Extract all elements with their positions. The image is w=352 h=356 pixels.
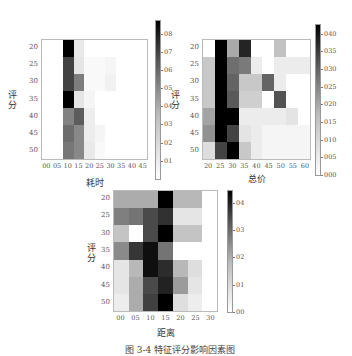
heatmap-cell: [114, 260, 129, 277]
colorbar-tick-label: 015: [324, 118, 336, 126]
heatmap-cell: [188, 260, 203, 277]
heatmap-grid-total-price: [202, 39, 311, 160]
heatmap-cell: [173, 242, 188, 259]
heatmap-cell: [74, 142, 85, 159]
heatmap-cell: [173, 294, 188, 311]
heatmap-cell: [84, 57, 95, 74]
heatmap-cell: [129, 294, 144, 311]
heatmap-cell: [105, 57, 116, 74]
heatmap-cell: [129, 277, 144, 294]
heatmap-cell: [74, 108, 85, 125]
heatmap-cell: [298, 108, 310, 125]
heatmap-cell: [227, 142, 239, 159]
colorbar-tick-label: 035: [324, 47, 336, 55]
heatmap-cell: [286, 142, 298, 159]
x-axis-label-total-price: 总价: [202, 172, 311, 185]
heatmap-cell: [126, 74, 137, 91]
heatmap-cell: [42, 74, 53, 91]
heatmap-cell: [215, 40, 227, 57]
y-axis-label-total-price: 评分: [170, 90, 180, 110]
x-tick-label: 10: [144, 314, 158, 322]
heatmap-cell: [188, 294, 203, 311]
heatmap-cell: [227, 91, 239, 108]
colorbar-tick-label: 030: [324, 65, 336, 73]
heatmap-cell: [188, 242, 203, 259]
colorbar-tick-label: 005: [324, 153, 336, 161]
heatmap-cell: [251, 74, 263, 91]
heatmap-cell: [42, 125, 53, 142]
heatmap-cell: [298, 74, 310, 91]
colorbar-duration: [155, 20, 161, 180]
figure-caption: 图 3-4 特征评分影响因素图: [100, 343, 260, 356]
heatmap-cell: [251, 108, 263, 125]
heatmap-cell: [203, 142, 215, 159]
heatmap-cell: [95, 91, 106, 108]
heatmap-cell: [203, 74, 215, 91]
heatmap-cell: [215, 57, 227, 74]
heatmap-cell: [63, 91, 74, 108]
heatmap-cell: [126, 125, 137, 142]
heatmap-cell: [95, 74, 106, 91]
x-tick-label: 60: [298, 162, 312, 170]
heatmap-cell: [188, 208, 203, 225]
heatmap-cell: [74, 57, 85, 74]
y-tick-label: 35: [183, 95, 199, 103]
heatmap-cell: [126, 142, 137, 159]
x-tick-label: 15: [159, 314, 173, 322]
colorbar-tick-label: 07: [164, 48, 172, 56]
heatmap-cell: [53, 40, 64, 57]
heatmap-cell: [158, 225, 173, 242]
x-tick-label: 00: [114, 314, 128, 322]
heatmap-cell: [251, 91, 263, 108]
heatmap-cell: [188, 191, 203, 208]
heatmap-cell: [227, 125, 239, 142]
colorbar-tick-label: 04: [236, 199, 244, 207]
heatmap-cell: [158, 260, 173, 277]
heatmap-cell: [63, 74, 74, 91]
heatmap-cell: [215, 142, 227, 159]
heatmap-cell: [286, 57, 298, 74]
colorbar-distance: [227, 190, 233, 313]
heatmap-cell: [158, 242, 173, 259]
heatmap-cell: [137, 142, 148, 159]
heatmap-cell: [116, 125, 127, 142]
heatmap-cell: [188, 225, 203, 242]
x-tick-label: 30: [204, 314, 218, 322]
heatmap-cell: [63, 125, 74, 142]
heatmap-cell: [173, 208, 188, 225]
x-axis-label-duration: 耗时: [41, 176, 148, 189]
heatmap-cell: [53, 142, 64, 159]
heatmap-cell: [173, 260, 188, 277]
heatmap-cell: [262, 125, 274, 142]
heatmap-cell: [143, 277, 158, 294]
x-axis-label-distance: 距离: [113, 326, 218, 339]
heatmap-cell: [286, 74, 298, 91]
colorbar-tick-label: 010: [324, 136, 336, 144]
heatmap-cell: [215, 108, 227, 125]
heatmap-cell: [143, 225, 158, 242]
heatmap-cell: [116, 91, 127, 108]
heatmap-cell: [116, 74, 127, 91]
heatmap-cell: [227, 57, 239, 74]
heatmap-cell: [143, 260, 158, 277]
heatmap-cell: [158, 277, 173, 294]
heatmap-cell: [203, 40, 215, 57]
heatmap-cell: [158, 294, 173, 311]
heatmap-cell: [63, 142, 74, 159]
heatmap-cell: [74, 125, 85, 142]
heatmap-cell: [42, 142, 53, 159]
heatmap-cell: [274, 108, 286, 125]
heatmap-grid-distance: [113, 190, 218, 312]
colorbar-tick-label: 040: [324, 30, 336, 38]
heatmap-cell: [114, 294, 129, 311]
y-axis-label-duration: 评分: [7, 90, 17, 110]
heatmap-cell: [63, 108, 74, 125]
heatmap-cell: [202, 277, 217, 294]
heatmap-cell: [227, 74, 239, 91]
heatmap-cell: [262, 57, 274, 74]
heatmap-cell: [74, 40, 85, 57]
heatmap-cell: [84, 74, 95, 91]
heatmap-cell: [129, 191, 144, 208]
y-tick-label: 45: [22, 129, 38, 137]
heatmap-cell: [114, 208, 129, 225]
